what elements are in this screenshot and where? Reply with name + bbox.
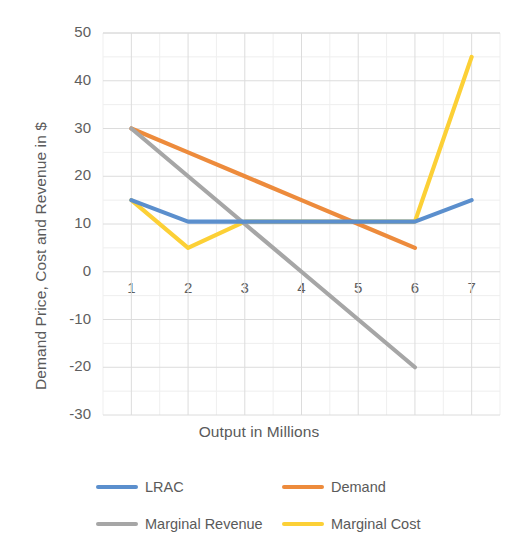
legend-row: LRAC Demand — [96, 468, 496, 505]
legend-item-lrac[interactable]: LRAC — [96, 468, 282, 505]
legend-swatch-lrac — [96, 485, 138, 489]
legend-swatch-marginal-revenue — [96, 522, 138, 526]
legend-label-lrac: LRAC — [145, 479, 184, 495]
legend-swatch-demand — [282, 485, 324, 489]
chart-legend: LRAC Demand Marginal Revenue Marginal Co… — [96, 468, 496, 543]
legend-row: Marginal Revenue Marginal Cost — [96, 505, 496, 542]
legend-label-demand: Demand — [331, 479, 386, 495]
legend-swatch-marginal-cost — [282, 522, 324, 526]
legend-item-demand[interactable]: Demand — [282, 468, 386, 505]
line-chart: Demand Price, Cost and Revenue in $ Outp… — [0, 0, 518, 557]
legend-item-marginal-cost[interactable]: Marginal Cost — [282, 505, 420, 542]
legend-label-marginal-revenue: Marginal Revenue — [145, 516, 263, 532]
legend-label-marginal-cost: Marginal Cost — [331, 516, 420, 532]
legend-item-marginal-revenue[interactable]: Marginal Revenue — [96, 505, 282, 542]
